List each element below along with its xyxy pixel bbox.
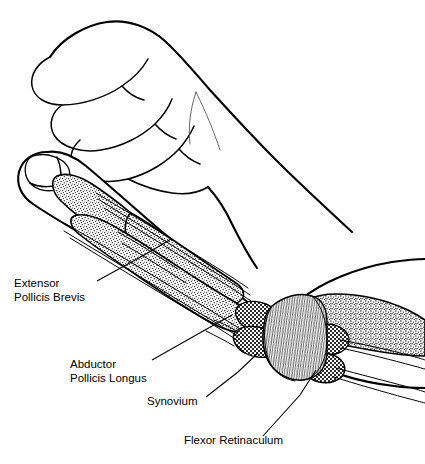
label-extensor-pollicis-brevis-line1: Extensor [14,277,60,289]
leader-synovium [206,353,258,397]
annotation-labels: Extensor Pollicis Brevis Abductor Pollic… [14,277,283,446]
leader-abductor-pollicis-longus [152,315,232,360]
anatomy-illustration-svg: Extensor Pollicis Brevis Abductor Pollic… [0,0,425,464]
label-synovium: Synovium [147,395,198,407]
label-abductor-pollicis-longus-line1: Abductor [70,358,116,370]
label-extensor-pollicis-brevis-line2: Pollicis Brevis [14,291,85,303]
stippled-bone-segments [53,174,257,332]
label-abductor-pollicis-longus-line2: Pollicis Longus [70,372,147,384]
flexor-retinaculum-band [263,294,327,381]
label-flexor-retinaculum: Flexor Retinaculum [184,434,283,446]
anatomy-figure: Extensor Pollicis Brevis Abductor Pollic… [0,0,425,464]
